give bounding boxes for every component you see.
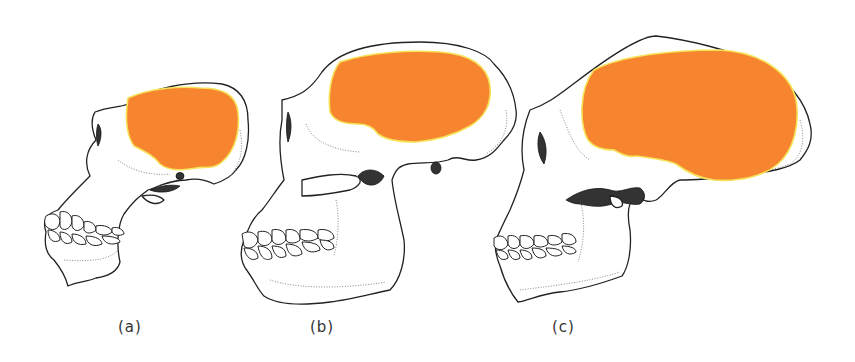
skull-comparison-figure: (a) (b) (c) bbox=[0, 0, 855, 362]
skull-c bbox=[494, 36, 811, 302]
panel-label-c: (c) bbox=[552, 318, 575, 336]
skull-b bbox=[241, 42, 516, 304]
skull-a bbox=[45, 83, 249, 286]
panel-label-b: (b) bbox=[310, 318, 334, 336]
panel-label-a: (a) bbox=[118, 318, 142, 336]
